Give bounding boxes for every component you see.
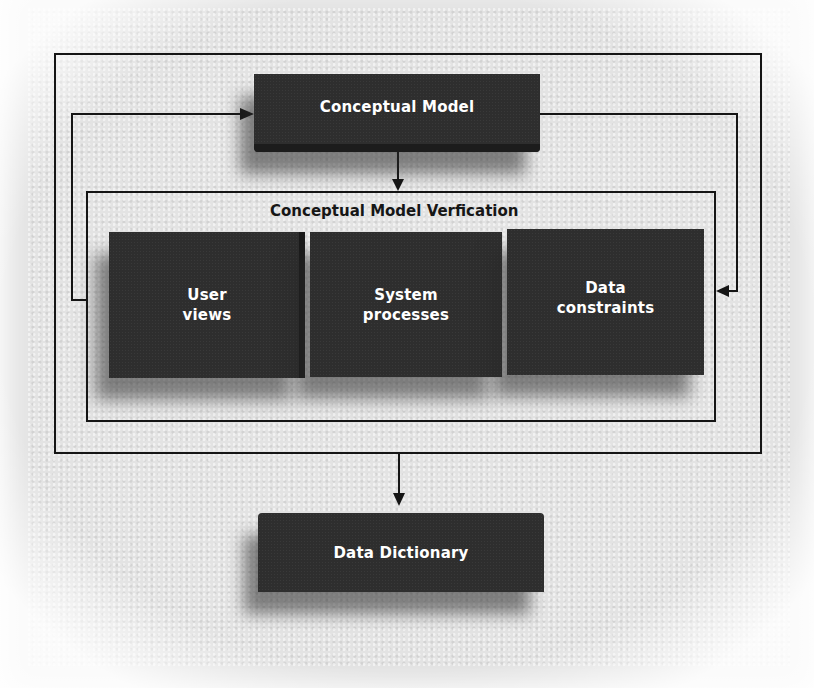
data-dictionary-label: Data Dictionary (333, 543, 468, 563)
data-dictionary-node: Data Dictionary (258, 513, 544, 592)
arrowhead-into-verification-right (716, 285, 729, 297)
data-constraints-node: Data constraints (507, 229, 704, 375)
user-views-node: User views (109, 232, 305, 378)
verification-group-title: Conceptual Model Verfication (270, 202, 518, 220)
conceptual-model-node: Conceptual Model (254, 74, 540, 152)
system-processes-node: System processes (310, 232, 502, 377)
arrowhead-into-verification (392, 179, 404, 191)
arrowhead-into-data-dictionary (393, 493, 405, 506)
conceptual-model-label: Conceptual Model (320, 97, 475, 117)
user-views-label: User views (183, 285, 232, 325)
node-bottom-bevel (254, 144, 540, 152)
arrowhead-into-conceptual-model (240, 108, 254, 120)
data-constraints-label: Data constraints (557, 278, 655, 318)
system-processes-label: System processes (363, 285, 449, 325)
